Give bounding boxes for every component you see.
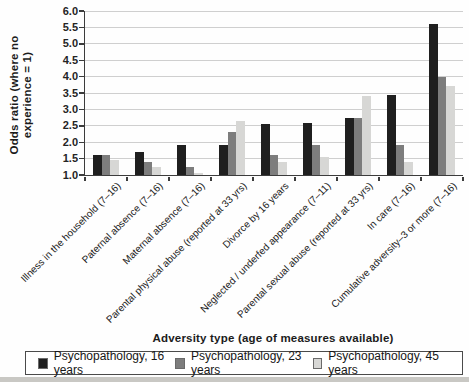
gridline	[85, 60, 463, 61]
x-axis-tick	[252, 177, 253, 181]
figure: Odds ratio (where no experience = 1) Adv…	[0, 0, 469, 382]
gridline	[85, 142, 463, 143]
x-axis-tick	[378, 177, 379, 181]
y-tick-label: 3.0	[40, 103, 78, 115]
y-tick-label: 1.5	[40, 152, 78, 164]
legend: Psychopathology, 16 years Psychopatholog…	[25, 351, 463, 375]
y-axis-title: Odds ratio (where no experience = 1)	[8, 0, 34, 190]
y-axis-title-line2: experience = 1)	[21, 0, 34, 190]
bar	[219, 145, 228, 175]
y-axis-tick	[79, 92, 84, 93]
bar	[312, 145, 321, 175]
x-axis-tick	[420, 177, 421, 181]
y-tick-label: 1.0	[40, 169, 78, 181]
y-tick-label: 6.0	[40, 5, 78, 17]
x-axis-tick	[84, 177, 85, 181]
gridline	[85, 11, 463, 12]
bar	[93, 155, 102, 175]
y-tick-label: 2.5	[40, 119, 78, 131]
bar	[110, 160, 119, 175]
bar	[261, 124, 270, 175]
bar	[186, 167, 195, 175]
bar	[446, 86, 455, 175]
legend-label-45-years: Psychopathology, 45 years	[328, 349, 450, 377]
legend-label-23-years: Psychopathology, 23 years	[191, 349, 313, 377]
legend-label-16-years: Psychopathology, 16 years	[54, 349, 176, 377]
gridline	[85, 76, 463, 77]
bar	[387, 95, 396, 175]
y-axis-tick	[79, 76, 84, 77]
y-axis-tick	[79, 27, 84, 28]
bar	[362, 96, 371, 175]
x-axis-tick	[294, 177, 295, 181]
bar	[354, 118, 363, 175]
bar	[135, 152, 144, 175]
bar	[278, 162, 287, 175]
bar	[303, 123, 312, 175]
y-axis-tick	[79, 174, 84, 175]
y-axis-tick	[79, 10, 84, 11]
x-axis-tick	[336, 177, 337, 181]
gridline	[85, 43, 463, 44]
legend-swatch-23-years	[175, 358, 185, 369]
bar	[270, 155, 279, 175]
y-tick-label: 4.0	[40, 70, 78, 82]
y-axis-tick	[79, 142, 84, 143]
bar	[438, 77, 447, 175]
y-axis-tick	[79, 43, 84, 44]
gridline	[85, 27, 463, 28]
y-axis-tick	[79, 109, 84, 110]
legend-swatch-16-years	[38, 358, 48, 369]
bar	[177, 145, 186, 175]
y-axis-tick	[79, 60, 84, 61]
x-axis-tick	[210, 177, 211, 181]
gridline	[85, 125, 463, 126]
y-tick-label: 5.5	[40, 21, 78, 33]
bar	[429, 24, 438, 175]
legend-entry-23-years: Psychopathology, 23 years	[175, 349, 312, 377]
y-tick-label: 2.0	[40, 136, 78, 148]
y-axis-tick	[79, 125, 84, 126]
legend-swatch-45-years	[313, 358, 323, 369]
bar	[228, 132, 237, 175]
bar	[144, 162, 153, 175]
bar	[396, 145, 405, 175]
legend-entry-16-years: Psychopathology, 16 years	[38, 349, 175, 377]
y-axis-tick	[79, 158, 84, 159]
x-category-label: Paternal absence (7–16)	[80, 180, 165, 265]
plot-area	[84, 11, 463, 176]
scan-page-edge	[0, 377, 469, 382]
bar	[152, 167, 161, 175]
bar	[194, 173, 203, 175]
x-axis-tick	[168, 177, 169, 181]
x-axis-title: Adversity type (age of measures availabl…	[84, 332, 462, 344]
x-axis-tick	[126, 177, 127, 181]
legend-entry-45-years: Psychopathology, 45 years	[313, 349, 450, 377]
gridline	[85, 109, 463, 110]
x-category-label: Maternal absence (7–16)	[120, 180, 206, 266]
y-tick-label: 3.5	[40, 87, 78, 99]
y-axis-title-line1: Odds ratio (where no	[8, 0, 21, 190]
y-tick-label: 4.5	[40, 54, 78, 66]
bar	[404, 162, 413, 175]
y-tick-label: 5.0	[40, 37, 78, 49]
gridline	[85, 93, 463, 94]
bar	[102, 155, 111, 175]
bar	[320, 157, 329, 175]
bar	[345, 118, 354, 175]
bar	[236, 121, 245, 175]
x-axis-tick	[462, 177, 463, 181]
